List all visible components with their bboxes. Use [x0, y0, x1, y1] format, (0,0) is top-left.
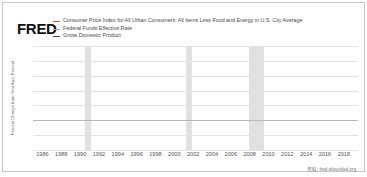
chart-plot-area: [33, 46, 358, 150]
x-axis-tick-label: 2006: [225, 151, 237, 157]
fred-chart-screenshot: FRED Consumer Price Index for All Urban …: [0, 0, 367, 177]
x-axis-tick-label: 2002: [187, 151, 199, 157]
legend-label-cpi: Consumer Price Index for All Urban Consu…: [63, 17, 302, 25]
gridline: [33, 120, 358, 121]
x-axis-tick-label: 1998: [149, 151, 161, 157]
legend-item-fed-funds[interactable]: Federal Funds Effective Rate: [53, 25, 363, 33]
legend-swatch-gdp: [53, 36, 60, 37]
x-axis-tick-label: 2008: [243, 151, 255, 157]
legend-item-gdp[interactable]: Gross Domestic Product: [53, 32, 363, 40]
gridline: [33, 91, 358, 92]
x-axis-tick-label: 1988: [55, 151, 67, 157]
chart-card: FRED Consumer Price Index for All Urban …: [2, 2, 365, 172]
source-caption: 资料: fred.stlouisfed.org: [307, 166, 356, 172]
x-axis-tick-labels: 1986198819901992199419961998200020022004…: [33, 151, 358, 161]
x-axis-tick-label: 2014: [300, 151, 312, 157]
x-axis-tick-label: 2016: [319, 151, 331, 157]
x-axis-tick-label: 1992: [93, 151, 105, 157]
x-axis-tick-label: 1994: [112, 151, 124, 157]
gridline: [33, 105, 358, 106]
gridline: [33, 61, 358, 62]
chart-legend: Consumer Price Index for All Urban Consu…: [53, 17, 363, 40]
y-axis-title: Percent Change from Year Ago, Percent: [8, 46, 18, 150]
gridline: [33, 46, 358, 47]
legend-item-cpi[interactable]: Consumer Price Index for All Urban Consu…: [53, 17, 363, 25]
x-axis-tick-label: 1990: [74, 151, 86, 157]
x-axis-tick-label: 2004: [206, 151, 218, 157]
gridline: [33, 76, 358, 77]
x-axis-tick-label: 2000: [168, 151, 180, 157]
x-axis-tick-label: 2010: [262, 151, 274, 157]
legend-swatch-cpi: [53, 21, 60, 22]
legend-swatch-fed-funds: [53, 29, 60, 30]
x-axis-tick-label: 2018: [338, 151, 350, 157]
legend-label-fed-funds: Federal Funds Effective Rate: [63, 25, 132, 33]
gridline: [33, 135, 358, 136]
x-axis-tick-label: 1996: [130, 151, 142, 157]
x-axis-tick-label: 2012: [281, 151, 293, 157]
x-axis-tick-label: 1986: [36, 151, 48, 157]
fred-logo: FRED: [17, 21, 57, 36]
legend-label-gdp: Gross Domestic Product: [63, 32, 121, 40]
